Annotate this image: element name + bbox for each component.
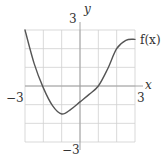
- x-min-tick-label: −3: [6, 92, 24, 104]
- x-axis-label: x: [145, 79, 152, 91]
- y-max-tick-label: 3: [69, 13, 77, 25]
- curve-label: f(x): [140, 34, 161, 46]
- x-max-tick-label: 3: [137, 92, 145, 104]
- y-axis-label: y: [84, 3, 91, 15]
- y-min-tick-label: −3: [62, 144, 80, 156]
- function-graph: [0, 0, 165, 164]
